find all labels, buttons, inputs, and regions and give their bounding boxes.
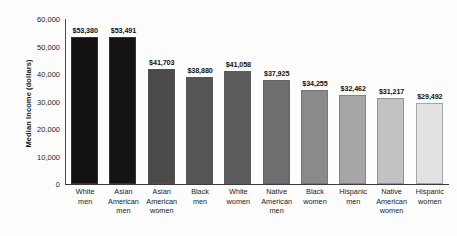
bar-value-label: $37,925 (264, 69, 289, 78)
bar (263, 80, 290, 184)
bar (224, 71, 251, 184)
x-axis-category-labels: WhitemenAsianAmericanmenAsianAmericanwom… (66, 187, 449, 233)
y-axis-tick-label: 0 (20, 180, 60, 189)
y-axis-tick-label: 40,000 (20, 70, 60, 79)
x-axis-category-label-line: women (140, 206, 184, 216)
bar-slot: $32,462 (334, 14, 372, 184)
y-axis-tick-label: 20,000 (20, 125, 60, 134)
bar-value-label: $53,491 (111, 26, 136, 35)
bar-value-label: $32,462 (341, 84, 366, 93)
bar (186, 77, 213, 184)
bar (416, 103, 443, 184)
bar (148, 69, 175, 184)
bar-value-label: $41,703 (149, 58, 174, 67)
bar-slot: $29,492 (411, 14, 449, 184)
plot-area: $53,380$53,491$41,703$38,880$41,058$37,9… (66, 14, 449, 184)
y-axis-tick-label: 50,000 (20, 42, 60, 51)
y-axis-tick-label: 10,000 (20, 152, 60, 161)
x-axis-category-label-line: women (370, 206, 414, 216)
x-axis-category-label: Hispanicwomen (408, 187, 452, 206)
bar (301, 90, 328, 184)
bar-chart: Median Income (dollars) 60,00050,00040,0… (0, 0, 457, 236)
bar-slot: $53,491 (104, 14, 142, 184)
bar-value-label: $29,492 (417, 92, 442, 101)
y-axis-tick-label: 60,000 (20, 15, 60, 24)
bar-slot: $41,703 (143, 14, 181, 184)
bar-value-label: $34,255 (302, 79, 327, 88)
bar (109, 37, 136, 184)
bar-value-label: $31,217 (379, 87, 404, 96)
x-axis-line (65, 184, 449, 185)
y-axis-tick-label: 30,000 (20, 97, 60, 106)
x-axis-category-label-line: women (408, 197, 452, 207)
bar (377, 98, 404, 184)
bar-slot: $53,380 (66, 14, 104, 184)
bar (71, 37, 98, 184)
bar-slot: $34,255 (296, 14, 334, 184)
y-axis-tick-labels: 60,00050,00040,00030,00020,00010,0000 (20, 14, 60, 190)
x-axis-category-label-line: men (255, 206, 299, 216)
bar (339, 95, 366, 184)
bar-value-label: $38,880 (187, 66, 212, 75)
bar-value-label: $41,058 (226, 60, 251, 69)
bar-slot: $31,217 (372, 14, 410, 184)
x-axis-category-label-line: Hispanic (408, 187, 452, 197)
bar-value-label: $53,380 (73, 26, 98, 35)
bar-slot: $37,925 (258, 14, 296, 184)
bar-slot: $38,880 (181, 14, 219, 184)
bar-slot: $41,058 (219, 14, 257, 184)
